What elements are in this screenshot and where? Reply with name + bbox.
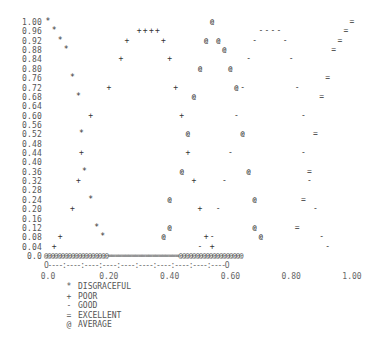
y-tick-label: 0.04 [2, 243, 42, 252]
data-point-good: - [293, 84, 301, 92]
baseline-row: @@@@@@@@@@@@@@@@@@@=====================… [44, 252, 243, 260]
data-point-poor: + [166, 55, 174, 63]
data-point-excellent: = [293, 224, 301, 232]
data-point-average: @ [166, 196, 174, 204]
data-point-average: @ [202, 37, 210, 45]
data-point-average: @ [208, 18, 216, 26]
y-tick-label: 0.96 [2, 27, 42, 36]
data-point-poor: + [184, 149, 192, 157]
y-tick-label: 0.32 [2, 177, 42, 186]
data-point-average: @ [214, 37, 222, 45]
y-tick-label: 0.36 [2, 168, 42, 177]
data-point-disgraceful: * [62, 46, 70, 54]
data-point-disgraceful: * [87, 196, 95, 204]
x-axis-line: O----:----:----:----:----:----:----:----… [44, 262, 228, 270]
y-tick-label: 0.48 [2, 140, 42, 149]
data-point-disgraceful: * [77, 130, 85, 138]
legend-label: EXCELLENT [78, 311, 121, 321]
data-point-good: - [275, 27, 283, 35]
y-tick-label: 0.28 [2, 186, 42, 195]
data-point-poor: + [153, 27, 161, 35]
data-point-average: @ [232, 84, 240, 92]
data-point-disgraceful: * [56, 37, 64, 45]
legend-item-disgraceful: * DISGRACEFUL [60, 282, 131, 292]
data-point-good: - [208, 233, 216, 241]
data-point-average: @ [160, 233, 168, 241]
legend-label: AVERAGE [78, 320, 112, 330]
y-tick-label: 0.92 [2, 37, 42, 46]
legend-label: POOR [78, 292, 97, 302]
data-point-disgraceful: * [68, 74, 76, 82]
y-tick-label: 0.80 [2, 65, 42, 74]
y-tick-label: 0.20 [2, 205, 42, 214]
y-tick-label: 0.76 [2, 74, 42, 83]
x-tick-label: 0.40 [160, 272, 179, 281]
data-point-excellent: = [312, 130, 320, 138]
legend-item-good: - GOOD [60, 301, 131, 311]
data-point-poor: + [68, 205, 76, 213]
membership-plot: 1.000.960.920.880.840.800.760.720.680.64… [0, 0, 368, 342]
y-tick-label: 0.40 [2, 158, 42, 167]
y-tick-label: 0.64 [2, 102, 42, 111]
data-point-poor: + [123, 37, 131, 45]
data-point-average: @ [251, 224, 259, 232]
data-point-poor: + [56, 233, 64, 241]
y-tick-label: 0.24 [2, 196, 42, 205]
data-point-good: - [305, 177, 313, 185]
data-point-poor: + [160, 37, 168, 45]
legend-item-excellent: = EXCELLENT [60, 311, 131, 321]
data-point-excellent: = [305, 168, 313, 176]
data-point-average: @ [196, 65, 204, 73]
data-point-good: - [196, 243, 204, 251]
data-point-disgraceful: * [93, 224, 101, 232]
data-point-excellent: = [336, 37, 344, 45]
x-tick-label: 0.80 [282, 272, 301, 281]
data-point-poor: + [208, 243, 216, 251]
y-tick-label: 0.12 [2, 224, 42, 233]
y-tick-label: 0.44 [2, 149, 42, 158]
x-tick-label: 1.00 [342, 272, 361, 281]
data-point-poor: + [74, 177, 82, 185]
data-point-good: - [312, 205, 320, 213]
data-point-average: @ [220, 46, 228, 54]
data-point-good: - [220, 177, 228, 185]
data-point-good: - [251, 37, 259, 45]
y-tick-label: 0.52 [2, 130, 42, 139]
data-point-poor: + [172, 84, 180, 92]
data-point-average: @ [245, 168, 253, 176]
data-point-disgraceful: * [50, 27, 58, 35]
data-point-excellent: = [330, 46, 338, 54]
y-tick-label: 0.72 [2, 84, 42, 93]
data-point-good: - [299, 112, 307, 120]
data-point-poor: + [77, 149, 85, 157]
plus-icon: + [60, 292, 78, 302]
y-tick-label: 0.88 [2, 46, 42, 55]
data-point-good: - [214, 205, 222, 213]
data-point-average: @ [239, 130, 247, 138]
data-point-average: @ [166, 224, 174, 232]
data-point-good: - [232, 112, 240, 120]
data-point-average: @ [190, 93, 198, 101]
data-point-excellent: = [348, 18, 356, 26]
legend-item-average: @ AVERAGE [60, 320, 131, 330]
x-tick-label: 0.60 [221, 272, 240, 281]
data-point-excellent: = [342, 27, 350, 35]
data-point-disgraceful: * [99, 233, 107, 241]
data-point-good: - [245, 55, 253, 63]
data-point-disgraceful: * [44, 18, 52, 26]
legend: * DISGRACEFUL + POOR - GOOD = EXCELLENT … [60, 282, 131, 330]
y-tick-label: 0.0 [2, 252, 42, 261]
data-point-poor: + [87, 112, 95, 120]
data-point-excellent: = [324, 74, 332, 82]
data-point-average: @ [257, 233, 265, 241]
x-tick-label: 0.20 [99, 272, 118, 281]
data-point-poor: + [190, 177, 198, 185]
data-point-average: @ [184, 130, 192, 138]
data-point-average: @ [251, 196, 259, 204]
data-point-poor: + [178, 112, 186, 120]
y-tick-label: 0.84 [2, 55, 42, 64]
data-point-average: @ [178, 168, 186, 176]
data-point-poor: + [105, 84, 113, 92]
data-point-disgraceful: * [74, 93, 82, 101]
y-tick-label: 0.68 [2, 93, 42, 102]
